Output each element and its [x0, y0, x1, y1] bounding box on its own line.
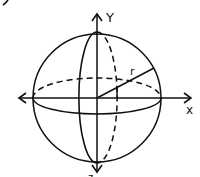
y-axis-label: Y: [105, 10, 114, 25]
corner-mark: [3, 0, 8, 5]
radius-label: r: [130, 65, 135, 78]
radius-line: [97, 68, 154, 98]
sphere-diagram: Y x r z: [0, 0, 200, 177]
x-axis-label: x: [186, 103, 193, 117]
z-axis-label-partial: z: [88, 172, 93, 177]
